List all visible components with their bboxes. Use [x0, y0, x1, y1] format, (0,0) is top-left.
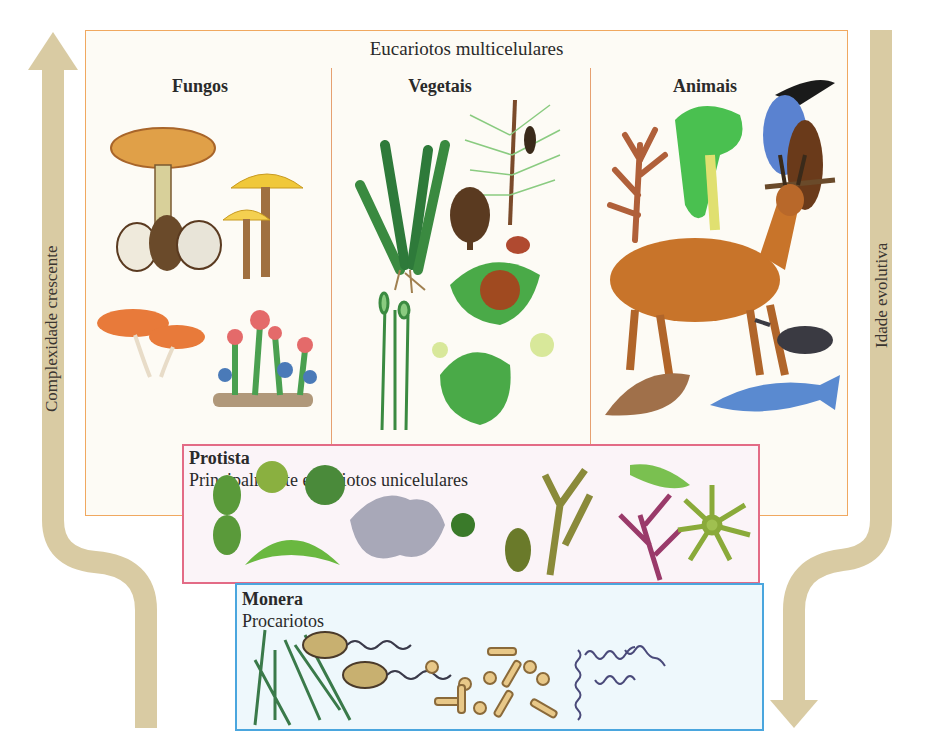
- multicellular-title: Eucariotos multicelulares: [85, 38, 848, 60]
- cocci-bacilli-icon: [426, 648, 558, 718]
- desmid-icon: [213, 475, 241, 555]
- kingdom-label-plants: Vegetais: [385, 76, 495, 97]
- plants-illustrations: [340, 95, 580, 435]
- flagellated-bacilli-icon: [303, 632, 451, 688]
- arrow-up-head: [28, 32, 78, 70]
- amanita-mushroom-icon: [111, 128, 221, 271]
- divider-plants-animals: [590, 68, 591, 444]
- arrow-down-head: [770, 700, 818, 728]
- closterium-icon: [245, 540, 340, 565]
- beetle-icon: [755, 320, 833, 354]
- fungi-illustrations: [95, 115, 325, 435]
- diatom-round-icon: [256, 461, 288, 493]
- kingdom-label-fungi: Fungos: [145, 76, 255, 97]
- divider-fungi-plants: [331, 68, 332, 444]
- moss-icon: [380, 293, 409, 430]
- monera-title: Monera: [242, 589, 303, 609]
- coral-icon: [610, 130, 665, 240]
- lichen-icon: [213, 310, 317, 407]
- pine-cone-icon: [450, 187, 490, 250]
- evolutionary-age-label: Idade evolutiva: [872, 243, 892, 348]
- spirochetes-icon: [576, 646, 666, 720]
- complexity-label: Complexidade crescente: [42, 245, 62, 412]
- orange-mushrooms-icon: [97, 309, 205, 377]
- liverwort-icon: [432, 333, 554, 425]
- chameleon-icon: [675, 106, 743, 230]
- diatom-split-icon: [305, 465, 345, 505]
- euglenoid-icon: [505, 528, 531, 572]
- yellow-mushrooms-icon: [223, 174, 303, 279]
- monera-illustrations: [240, 620, 760, 730]
- amoeba-icon: [350, 496, 445, 559]
- red-alga-icon: [620, 495, 680, 580]
- sea-snail-icon: [605, 373, 690, 415]
- fern-icon: [360, 145, 445, 270]
- animals-illustrations: [600, 75, 845, 435]
- green-cell-icon: [630, 464, 690, 488]
- flagellate-icon: [451, 513, 475, 537]
- protista-illustrations: [200, 455, 755, 583]
- flowering-plant-fruit-icon: [450, 236, 540, 325]
- fish-icon: [710, 375, 840, 411]
- kelp-icon: [545, 470, 590, 575]
- heliozoan-icon: [678, 485, 750, 560]
